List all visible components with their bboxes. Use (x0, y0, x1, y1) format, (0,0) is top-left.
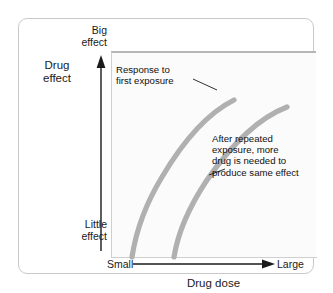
x-axis-arrow (133, 260, 275, 269)
x-axis-right-label: Large (277, 259, 304, 271)
annotation-first-exposure: Response to first exposure (116, 64, 202, 86)
figure-card: Drug effect Big effect Little effect Sma… (18, 18, 314, 274)
annotation-repeated-exposure: After repeated exposure, more drug is ne… (212, 133, 312, 178)
curve-repeated-exposure (174, 107, 287, 257)
x-axis-left-label: Small (107, 259, 133, 271)
x-axis-title: Drug dose (111, 278, 316, 290)
curve-first-exposure (132, 100, 234, 257)
y-axis-bottom-label: Little effect (61, 219, 107, 242)
y-axis-title: Drug effect (27, 59, 87, 85)
y-axis-top-label: Big effect (67, 25, 107, 48)
